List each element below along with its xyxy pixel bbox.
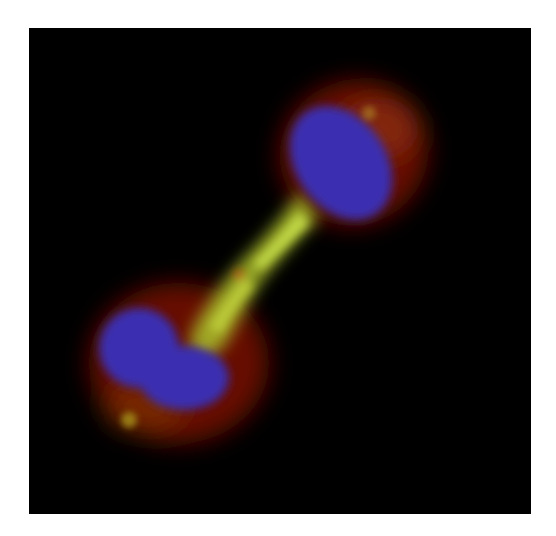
micrograph-image: [29, 28, 531, 514]
micrograph-frame: Fluorescence micrograph of a dividing ce…: [29, 28, 531, 514]
